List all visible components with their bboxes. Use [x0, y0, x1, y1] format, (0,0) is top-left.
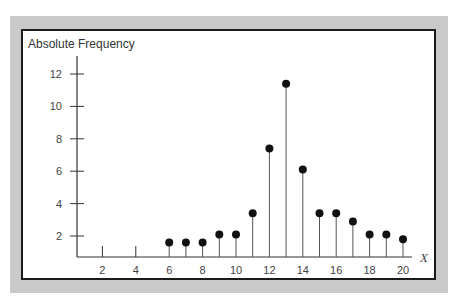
data-point-marker: [366, 230, 374, 238]
data-point-marker: [316, 209, 324, 217]
y-tick-label: 10: [50, 100, 62, 112]
x-tick-label: 8: [200, 264, 206, 276]
data-point-marker: [282, 80, 290, 88]
axes: 246810122468101214161820: [50, 56, 412, 276]
data-point-marker: [165, 238, 173, 246]
y-tick-label: 8: [56, 133, 62, 145]
data-point-marker: [249, 209, 257, 217]
data-point-marker: [399, 235, 407, 243]
data-point-marker: [382, 230, 390, 238]
x-tick-label: 20: [397, 264, 409, 276]
x-tick-label: 4: [133, 264, 139, 276]
x-tick-label: 6: [166, 264, 172, 276]
data-point-marker: [182, 238, 190, 246]
y-tick-label: 2: [56, 230, 62, 242]
y-tick-label: 4: [56, 198, 62, 210]
x-tick-label: 18: [363, 264, 375, 276]
data-point-marker: [332, 209, 340, 217]
y-tick-label: 12: [50, 68, 62, 80]
data-point-marker: [265, 145, 273, 153]
data-point-marker: [232, 230, 240, 238]
x-tick-label: 12: [263, 264, 275, 276]
data-point-marker: [299, 166, 307, 174]
x-tick-label: 14: [297, 264, 309, 276]
x-tick-label: 16: [330, 264, 342, 276]
data-point-marker: [215, 230, 223, 238]
data-stems: [165, 80, 407, 257]
x-axis-label: X: [419, 250, 429, 265]
data-point-marker: [199, 238, 207, 246]
data-point-marker: [349, 217, 357, 225]
stem-plot: 246810122468101214161820 X: [0, 0, 458, 306]
x-tick-label: 10: [230, 264, 242, 276]
x-tick-label: 2: [99, 264, 105, 276]
y-tick-label: 6: [56, 165, 62, 177]
